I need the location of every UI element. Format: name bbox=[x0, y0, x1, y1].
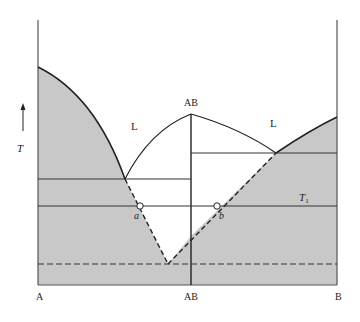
composition-label-B: B bbox=[335, 291, 342, 302]
point-a-label: a bbox=[134, 210, 139, 221]
peak-label-AB: AB bbox=[184, 97, 198, 108]
liquid-label-left: L bbox=[131, 120, 138, 132]
point-a bbox=[137, 203, 143, 209]
point-b bbox=[214, 203, 220, 209]
liquid-label-right: L bbox=[270, 117, 277, 129]
composition-label-A: A bbox=[36, 291, 44, 302]
liquidus-AB-right bbox=[191, 114, 276, 153]
point-b-label: b bbox=[219, 210, 224, 221]
composition-label-AB: AB bbox=[184, 291, 198, 302]
temperature-axis-label: T bbox=[17, 142, 24, 154]
phase-diagram: T L L AB T1 a b A AB B bbox=[0, 0, 360, 322]
temperature-arrowhead-icon bbox=[21, 103, 26, 110]
